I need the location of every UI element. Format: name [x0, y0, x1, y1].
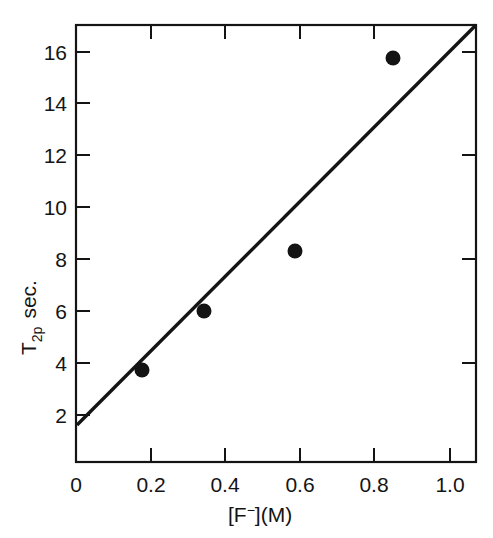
- data-point: [288, 244, 303, 259]
- y-tick-label-6: 6: [55, 300, 67, 323]
- figure-container: 16 14 12 10 8 6 4 2 0 0.2 0.4 0.6 0.8 1.…: [0, 0, 493, 538]
- data-point: [197, 304, 212, 319]
- x-axis-title-end: ](M): [255, 503, 292, 526]
- svg-text:[F−](M): [F−](M): [228, 502, 292, 526]
- x-tick-label-0p8: 0.8: [359, 473, 388, 496]
- x-tick-label-0p6: 0.6: [285, 473, 314, 496]
- scatter-plot: 16 14 12 10 8 6 4 2 0 0.2 0.4 0.6 0.8 1.…: [0, 0, 493, 538]
- x-axis-title-charge: −: [247, 502, 255, 518]
- x-tick-labels: 0 0.2 0.4 0.6 0.8 1.0: [70, 473, 464, 496]
- y-axis-ticks: [76, 52, 90, 415]
- x-tick-label-0p4: 0.4: [210, 473, 240, 496]
- y-axis-title-subscript: 2p: [29, 326, 45, 342]
- y-axis-title-unit: sec.: [17, 280, 40, 319]
- x-axis-title: [F−](M): [228, 502, 292, 526]
- data-point: [135, 363, 150, 378]
- y-tick-label-10: 10: [44, 196, 67, 219]
- y-tick-label-12: 12: [44, 144, 67, 167]
- y-tick-label-14: 14: [44, 92, 68, 115]
- y-tick-labels: 16 14 12 10 8 6 4 2: [44, 41, 68, 427]
- x-axis-ticks: [151, 448, 450, 462]
- x-tick-label-0p2: 0.2: [136, 473, 165, 496]
- y-tick-label-8: 8: [55, 248, 67, 271]
- y-tick-label-16: 16: [44, 41, 67, 64]
- x-axis-title-bracket: [F: [228, 503, 247, 526]
- y-axis-title: T2psec.: [17, 280, 45, 355]
- y-tick-label-4: 4: [55, 352, 67, 375]
- plot-frame: [76, 25, 476, 462]
- x-tick-label-1p0: 1.0: [435, 473, 464, 496]
- x-axis-ticks-top: [151, 25, 374, 39]
- y-axis-title-symbol: T: [17, 342, 40, 355]
- x-tick-label-0: 0: [70, 473, 82, 496]
- svg-text:T2psec.: T2psec.: [17, 280, 45, 355]
- y-tick-label-2: 2: [55, 404, 67, 427]
- data-point: [386, 51, 401, 66]
- y-axis-ticks-right: [462, 52, 476, 363]
